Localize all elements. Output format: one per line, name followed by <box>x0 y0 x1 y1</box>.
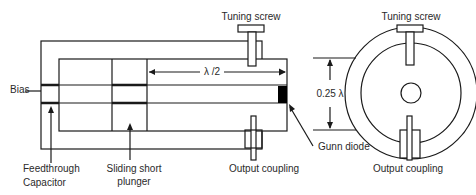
label-tuning-screw-side: Tuning screw <box>221 11 280 23</box>
end-view-center <box>401 83 421 103</box>
end-tuning-screw-head <box>397 25 423 32</box>
label-gunn-diode: Gunn diode <box>318 141 370 153</box>
label-tuning-screw-end: Tuning screw <box>381 11 440 23</box>
label-quarter-wavelength: 0.25 λ <box>316 88 343 100</box>
label-bias: Bias <box>10 84 29 96</box>
gunn-diode <box>278 86 287 103</box>
label-output-coupling-end: Output coupling <box>373 163 443 175</box>
label-feedthrough-2: Capacitor <box>23 177 66 189</box>
label-feedthrough-1: Feedthrough <box>23 163 80 175</box>
output-coupling-probe <box>251 116 256 160</box>
label-plunger-2: plunger <box>117 176 150 188</box>
tuning-screw-shaft <box>248 32 256 66</box>
label-plunger-1: Sliding short <box>106 163 161 175</box>
label-output-coupling-side: Output coupling <box>229 163 299 175</box>
end-tuning-screw-shaft <box>406 32 414 65</box>
tuning-screw-head <box>238 25 264 32</box>
end-output-coupling-probe <box>407 116 412 160</box>
label-half-wavelength: λ /2 <box>202 66 222 78</box>
